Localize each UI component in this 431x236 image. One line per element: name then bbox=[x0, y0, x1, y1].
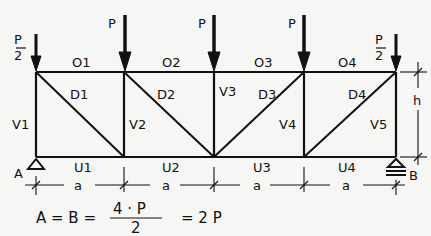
diagonal-d4 bbox=[304, 72, 396, 157]
load-p3: P bbox=[198, 16, 206, 31]
diagonal-d1 bbox=[36, 72, 124, 157]
label-bay-1: a bbox=[74, 178, 82, 193]
equation-rhs: = 2 P bbox=[181, 209, 222, 227]
label-u3: U3 bbox=[253, 160, 271, 175]
equation-denominator: 2 bbox=[131, 219, 141, 236]
load-left-denominator: 2 bbox=[14, 48, 22, 63]
load-left-numerator: P bbox=[14, 32, 22, 47]
label-v1: V1 bbox=[12, 117, 29, 132]
support-b-icon bbox=[386, 159, 406, 175]
truss-diagram: P 2 P P P P 2 O1 O2 O3 O4 D1 D2 D3 D4 V1… bbox=[0, 0, 431, 236]
support-a-icon bbox=[28, 159, 44, 169]
label-support-b: B bbox=[409, 168, 418, 183]
label-bay-4: a bbox=[342, 178, 350, 193]
label-height: h bbox=[413, 93, 421, 108]
diagonal-d2 bbox=[124, 72, 214, 157]
label-d3: D3 bbox=[258, 87, 276, 102]
label-o2: O2 bbox=[162, 55, 181, 70]
label-u2: U2 bbox=[162, 160, 180, 175]
equation-lhs: A = B = bbox=[36, 209, 96, 227]
equation-numerator: 4 · P bbox=[113, 200, 146, 218]
label-o3: O3 bbox=[254, 55, 273, 70]
label-o4: O4 bbox=[338, 55, 357, 70]
label-v5: V5 bbox=[370, 117, 387, 132]
label-bay-2: a bbox=[162, 178, 170, 193]
label-d2: D2 bbox=[157, 87, 175, 102]
label-support-a: A bbox=[14, 166, 23, 181]
label-bay-3: a bbox=[253, 178, 261, 193]
height-dimension bbox=[400, 62, 427, 165]
label-u4: U4 bbox=[338, 160, 356, 175]
label-v2: V2 bbox=[129, 117, 146, 132]
load-right-denominator: 2 bbox=[375, 48, 383, 63]
load-right-numerator: P bbox=[375, 32, 383, 47]
label-d1: D1 bbox=[70, 87, 88, 102]
load-p2: P bbox=[108, 16, 116, 31]
load-p4: P bbox=[288, 16, 296, 31]
label-d4: D4 bbox=[348, 87, 366, 102]
label-o1: O1 bbox=[72, 55, 91, 70]
label-v3: V3 bbox=[219, 84, 236, 99]
label-v4: V4 bbox=[279, 117, 296, 132]
label-u1: U1 bbox=[74, 160, 92, 175]
